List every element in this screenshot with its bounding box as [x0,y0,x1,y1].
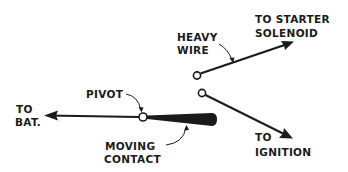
label-to-ignition-line2: IGNITION [255,146,311,158]
pivot-leader-arrowhead-icon [139,107,144,113]
label-moving-contact-line1: MOVING [105,140,155,152]
label-to-starter-line2: SOLENOID [255,27,318,39]
label-pivot: PIVOT [86,88,124,100]
label-heavy-wire-line1: HEAVY [177,31,218,43]
label-to-ignition-line1: TO [255,131,272,143]
label-heavy-wire-line2: WIRE [177,44,209,56]
starter-terminal-circle-icon [193,72,200,79]
pivot-leader [126,94,141,110]
pivot-circle-icon [139,113,147,121]
battery-arrowhead-icon [44,111,58,121]
switch-diagram: TO BAT. PIVOT HEAVY WIRE TO STARTER SOLE… [0,0,348,172]
heavy-wire-leader [219,44,232,60]
moving-contact-bar [147,113,217,126]
label-to-bat-line1: TO [16,103,33,115]
battery-wire [44,111,139,121]
label-to-starter-line1: TO STARTER [255,13,330,25]
moving-contact-leader-arrowhead-icon [184,125,189,131]
label-moving-contact-line2: CONTACT [104,153,161,165]
moving-contact-leader [166,128,186,145]
label-to-bat-line2: BAT. [15,116,41,128]
ignition-terminal-circle-icon [198,89,205,96]
